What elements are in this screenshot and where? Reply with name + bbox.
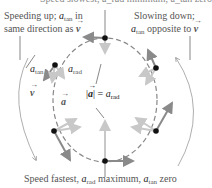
magnitude-equation: |a| = arad	[86, 88, 120, 103]
a-tan-label: atan	[30, 63, 44, 78]
a-rad-label: arad	[68, 63, 82, 78]
velocity-vector-label: v	[30, 87, 34, 98]
point-upper-left	[52, 62, 58, 68]
vertical-circle-motion-diagram: Speed slowest, a_rad minimum, a_tan zero…	[0, 0, 212, 188]
slowing-down-caption-line1: Slowing down;	[134, 10, 195, 21]
slowing-down-arc	[176, 58, 194, 166]
top-caption: Speed slowest, a_rad minimum, a_tan zero	[40, 0, 212, 4]
bottom-caption: Speed fastest, arad maximum, atan zero	[24, 173, 177, 188]
magnitude-leader-down	[96, 108, 104, 118]
point-upper-right	[153, 65, 159, 71]
point-right	[153, 128, 159, 134]
slowing-down-caption-line2: atan opposite to v	[131, 23, 198, 38]
point-bottom	[102, 158, 108, 164]
point-left	[51, 128, 57, 134]
point-top	[102, 35, 108, 41]
acceleration-vector-label: a	[61, 96, 66, 107]
magnitude-leader-up	[96, 64, 101, 84]
speeding-up-caption-line2: same direction as v	[4, 23, 80, 34]
